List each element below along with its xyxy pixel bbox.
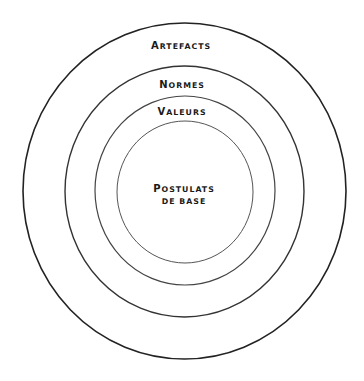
label-postulats-line2: DE BASE <box>162 197 206 206</box>
label-postulats-line1: POSTULATS <box>153 183 215 194</box>
culture-layers-diagram: ARTEFACTS NORMES VALEURS POSTULATS DE BA… <box>0 0 364 381</box>
label-artefacts: ARTEFACTS <box>151 40 211 51</box>
label-normes: NORMES <box>159 79 205 90</box>
label-valeurs: VALEURS <box>157 106 206 117</box>
